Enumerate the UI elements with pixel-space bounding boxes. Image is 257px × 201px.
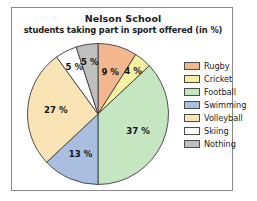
legend-item-volleyball: Volleyball [184, 111, 232, 124]
legend-item-cricket: Cricket [184, 72, 232, 85]
legend-label: Nothing [204, 139, 236, 149]
pie-slice-label-volleyball: 27 % [44, 105, 68, 115]
pie-slice-label-football: 37 % [126, 126, 150, 136]
legend-item-football: Football [184, 85, 232, 98]
legend-item-rugby: Rugby [184, 59, 232, 72]
pie-slice-label-nothing: 5 % [81, 57, 99, 67]
legend-label: Cricket [204, 74, 232, 84]
legend-label: Swimming [204, 100, 246, 110]
chart-legend: RugbyCricketFootballSwimmingVolleyballSk… [184, 59, 232, 151]
chart-subtitle: students taking part in sport offered (i… [12, 26, 234, 36]
legend-swatch-football [184, 88, 200, 96]
legend-swatch-skiing [184, 127, 200, 135]
legend-item-swimming: Swimming [184, 98, 232, 111]
legend-swatch-volleyball [184, 114, 200, 122]
legend-item-nothing: Nothing [184, 138, 232, 151]
pie-slice-label-cricket: 4 % [124, 66, 142, 76]
page-title: Nelson School [12, 14, 234, 25]
legend-item-skiing: Skiing [184, 124, 232, 137]
chart-title-block: Nelson School students taking part in sp… [12, 14, 234, 35]
pie-chart: 9 %4 %37 %13 %27 %5 %5 % [25, 41, 171, 187]
pie-chart-svg: 9 %4 %37 %13 %27 %5 %5 % [25, 41, 171, 187]
pie-slice-label-rugby: 9 % [101, 67, 119, 77]
pie-slice-label-swimming: 13 % [69, 149, 93, 159]
legend-label: Skiing [204, 126, 229, 136]
legend-swatch-rugby [184, 62, 200, 70]
legend-swatch-nothing [184, 140, 200, 148]
legend-label: Football [204, 87, 236, 97]
chart-frame: Nelson School students taking part in sp… [11, 7, 233, 191]
legend-swatch-cricket [184, 75, 200, 83]
legend-label: Rugby [204, 61, 230, 71]
legend-swatch-swimming [184, 101, 200, 109]
legend-label: Volleyball [204, 113, 243, 123]
